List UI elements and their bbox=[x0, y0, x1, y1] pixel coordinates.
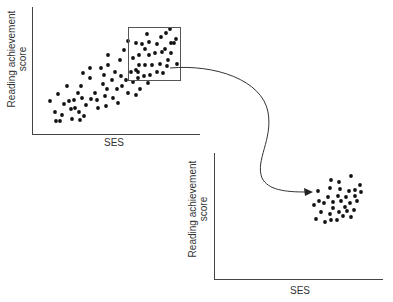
data-point bbox=[70, 117, 74, 121]
chart2-x-label: SES bbox=[290, 285, 310, 296]
data-point bbox=[115, 87, 119, 91]
data-point bbox=[95, 98, 99, 102]
data-point bbox=[131, 56, 135, 60]
data-point bbox=[337, 180, 341, 184]
data-point bbox=[143, 47, 147, 51]
data-point bbox=[140, 42, 144, 46]
data-point bbox=[53, 110, 57, 114]
data-point bbox=[322, 201, 326, 205]
data-point bbox=[353, 194, 357, 198]
data-point bbox=[119, 74, 123, 78]
data-point bbox=[93, 91, 97, 95]
data-point bbox=[155, 70, 159, 74]
data-point bbox=[73, 106, 77, 110]
data-point bbox=[166, 58, 170, 62]
data-point bbox=[78, 118, 82, 122]
data-point bbox=[349, 174, 353, 178]
data-point bbox=[331, 206, 335, 210]
data-point bbox=[312, 203, 316, 207]
data-point bbox=[146, 81, 150, 85]
data-point bbox=[106, 53, 110, 57]
chart2-axes bbox=[214, 153, 383, 280]
data-point bbox=[344, 195, 348, 199]
data-point bbox=[338, 187, 342, 191]
data-point bbox=[48, 99, 52, 103]
data-point bbox=[335, 218, 339, 222]
data-point bbox=[153, 51, 157, 55]
data-point bbox=[126, 91, 130, 95]
data-point bbox=[54, 119, 58, 123]
data-point bbox=[160, 50, 164, 54]
data-point bbox=[104, 104, 108, 108]
data-point bbox=[337, 210, 341, 214]
arrowhead-icon bbox=[304, 188, 313, 196]
data-point bbox=[142, 74, 146, 78]
data-point bbox=[134, 68, 138, 72]
data-point bbox=[343, 205, 347, 209]
data-point bbox=[111, 96, 115, 100]
data-point bbox=[88, 66, 92, 70]
data-point bbox=[349, 215, 353, 219]
data-point bbox=[169, 51, 173, 55]
data-point bbox=[143, 63, 147, 67]
data-point bbox=[62, 102, 66, 106]
data-point bbox=[80, 96, 84, 100]
data-point bbox=[147, 40, 151, 44]
data-point bbox=[175, 62, 179, 66]
chart1-y-label-line2: score bbox=[17, 4, 28, 114]
data-point bbox=[172, 41, 176, 45]
data-point bbox=[341, 214, 345, 218]
chart1-points bbox=[48, 27, 179, 123]
data-point bbox=[159, 35, 163, 39]
chart1-x-label: SES bbox=[104, 137, 124, 148]
data-point bbox=[118, 58, 122, 62]
data-point bbox=[137, 63, 141, 67]
data-point bbox=[102, 73, 106, 77]
data-point bbox=[105, 87, 109, 91]
chart2-y-label-line2: score bbox=[198, 154, 209, 264]
data-point bbox=[150, 63, 154, 67]
data-point bbox=[56, 92, 60, 96]
data-point bbox=[99, 66, 103, 70]
data-point bbox=[103, 94, 107, 98]
data-point bbox=[359, 190, 363, 194]
data-point bbox=[174, 37, 178, 41]
data-point bbox=[129, 70, 133, 74]
data-point bbox=[331, 200, 335, 204]
data-point bbox=[81, 71, 85, 75]
data-point bbox=[122, 48, 126, 52]
data-point bbox=[106, 63, 110, 67]
data-point bbox=[137, 53, 141, 57]
data-point bbox=[134, 41, 138, 45]
data-point bbox=[326, 195, 330, 199]
data-point bbox=[82, 114, 86, 118]
data-point bbox=[67, 99, 71, 103]
data-point bbox=[101, 82, 105, 86]
data-point bbox=[145, 32, 149, 36]
data-point bbox=[65, 84, 69, 88]
data-point bbox=[317, 199, 321, 203]
data-point bbox=[161, 71, 165, 75]
data-point bbox=[329, 218, 333, 222]
data-point bbox=[164, 31, 168, 35]
data-point bbox=[96, 106, 100, 110]
data-point bbox=[138, 87, 142, 91]
data-point bbox=[323, 220, 327, 224]
data-point bbox=[120, 84, 124, 88]
data-point bbox=[329, 178, 333, 182]
data-point bbox=[136, 76, 140, 80]
data-point bbox=[88, 76, 92, 80]
data-point bbox=[89, 97, 93, 101]
data-point bbox=[348, 201, 352, 205]
data-point bbox=[358, 183, 362, 187]
data-point bbox=[163, 47, 167, 51]
data-point bbox=[314, 217, 318, 221]
data-point bbox=[347, 189, 351, 193]
data-point bbox=[79, 84, 83, 88]
data-point bbox=[316, 189, 320, 193]
chart2-y-label-line1: Reading achievement bbox=[187, 154, 198, 264]
data-point bbox=[58, 119, 62, 123]
data-point bbox=[76, 91, 80, 95]
data-point bbox=[110, 78, 114, 82]
chart1-y-label-line1: Reading achievement bbox=[6, 4, 17, 114]
